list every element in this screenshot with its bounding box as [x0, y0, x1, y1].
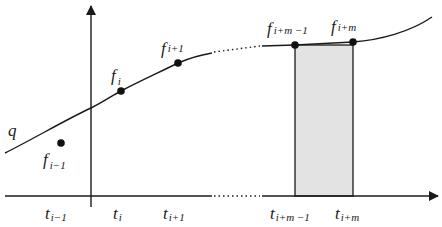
point-f-i-plus-m-minus-1: [291, 41, 299, 49]
label-f-i-plus-m-minus-1: fi+m −1: [267, 19, 308, 38]
curve-q: [5, 17, 432, 153]
label-f-i: fi: [111, 66, 121, 87]
tick-t-i-minus-1: ti−1: [45, 204, 67, 223]
shaded-interval: [295, 45, 353, 196]
tick-t-i-plus-1: ti+1: [163, 204, 185, 223]
tick-t-i-plus-m: ti+m: [335, 204, 359, 223]
label-f-i-plus-m: fi+m: [331, 17, 356, 36]
point-f-i-plus-m: [349, 38, 357, 46]
point-f-i-plus-1: [174, 59, 182, 67]
point-f-i-minus-1: [57, 139, 65, 147]
tick-t-i: ti: [113, 204, 122, 223]
label-f-i-minus-1: fi−1: [43, 150, 66, 171]
label-f-i-plus-1: fi+1: [161, 39, 184, 58]
diagram-svg: q fi−1 fi fi+1 fi+m −1 fi+m ti−1 ti ti+1…: [0, 0, 442, 227]
diagram-canvas: q fi−1 fi fi+1 fi+m −1 fi+m ti−1 ti ti+1…: [0, 0, 442, 227]
tick-t-i-plus-m-minus-1: ti+m −1: [270, 204, 310, 223]
point-f-i: [117, 87, 125, 95]
curve-label-q: q: [8, 121, 17, 140]
